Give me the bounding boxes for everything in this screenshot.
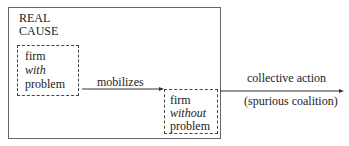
arrow-collective-action [220,89,344,93]
arrow-mobilizes [82,87,164,91]
arrows-layer [0,0,349,146]
